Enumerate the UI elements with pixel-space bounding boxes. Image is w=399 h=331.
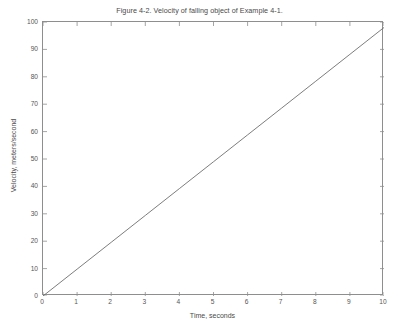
figure-container: Figure 4-2. Velocity of falling object o… bbox=[0, 0, 399, 331]
chart-title: Figure 4-2. Velocity of falling object o… bbox=[0, 6, 399, 15]
x-tick-label: 0 bbox=[40, 298, 44, 305]
x-tick-label: 2 bbox=[108, 298, 112, 305]
data-line-velocity bbox=[43, 27, 384, 296]
y-tick-label: 50 bbox=[31, 155, 38, 162]
y-tick-label: 30 bbox=[31, 209, 38, 216]
x-tick-label: 6 bbox=[245, 298, 249, 305]
plot-svg bbox=[43, 22, 384, 296]
y-axis-title: Velocity, meters/second bbox=[10, 96, 17, 216]
y-tick-label: 40 bbox=[31, 182, 38, 189]
x-tick-label: 9 bbox=[347, 298, 351, 305]
y-axis-tick-labels: 0102030405060708090100 bbox=[0, 21, 38, 295]
y-tick-label: 70 bbox=[31, 100, 38, 107]
x-tick-label: 10 bbox=[379, 298, 386, 305]
plot-area bbox=[42, 21, 383, 295]
y-tick-label: 0 bbox=[34, 292, 38, 299]
x-axis-tick-labels: 012345678910 bbox=[42, 298, 383, 310]
x-tick-label: 5 bbox=[211, 298, 215, 305]
y-tick-label: 60 bbox=[31, 127, 38, 134]
x-tick-label: 7 bbox=[279, 298, 283, 305]
x-tick-label: 8 bbox=[313, 298, 317, 305]
x-tick-label: 3 bbox=[142, 298, 146, 305]
y-tick-label: 100 bbox=[27, 18, 38, 25]
x-tick-label: 1 bbox=[74, 298, 78, 305]
y-tick-label: 10 bbox=[31, 264, 38, 271]
x-tick-label: 4 bbox=[177, 298, 181, 305]
y-tick-label: 20 bbox=[31, 237, 38, 244]
y-tick-label: 90 bbox=[31, 45, 38, 52]
y-tick-label: 80 bbox=[31, 72, 38, 79]
x-axis-title: Time, seconds bbox=[42, 312, 383, 319]
